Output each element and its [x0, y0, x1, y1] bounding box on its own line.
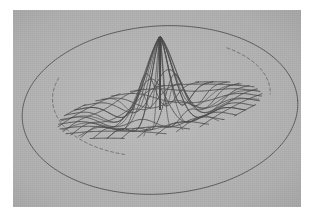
hidden-edge-group: [53, 48, 271, 155]
plot-area: [13, 10, 301, 207]
figure-container: [0, 0, 322, 220]
mesh-line-group: [22, 26, 298, 195]
mesh-curve: [156, 85, 249, 135]
mesh-curve: [66, 79, 236, 122]
wireframe-mesh-surface-plot: [13, 10, 301, 207]
mesh-curve: [227, 48, 270, 94]
